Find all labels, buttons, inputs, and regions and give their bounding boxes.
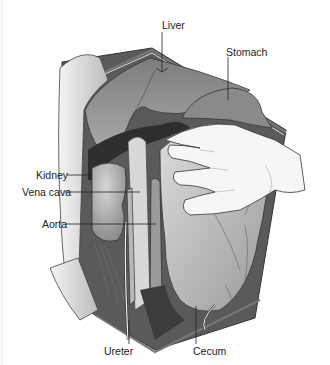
anatomy-illustration (0, 0, 330, 365)
label-stomach: Stomach (226, 47, 267, 58)
label-aorta: Aorta (42, 219, 67, 230)
label-liver: Liver (162, 20, 185, 31)
label-cecum: Cecum (193, 346, 226, 357)
label-vena-cava: Vena cava (22, 187, 71, 198)
label-ureter: Ureter (104, 346, 133, 357)
kidney-shape (92, 163, 126, 241)
aorta-shape (150, 178, 162, 303)
label-kidney: Kidney (36, 170, 68, 181)
